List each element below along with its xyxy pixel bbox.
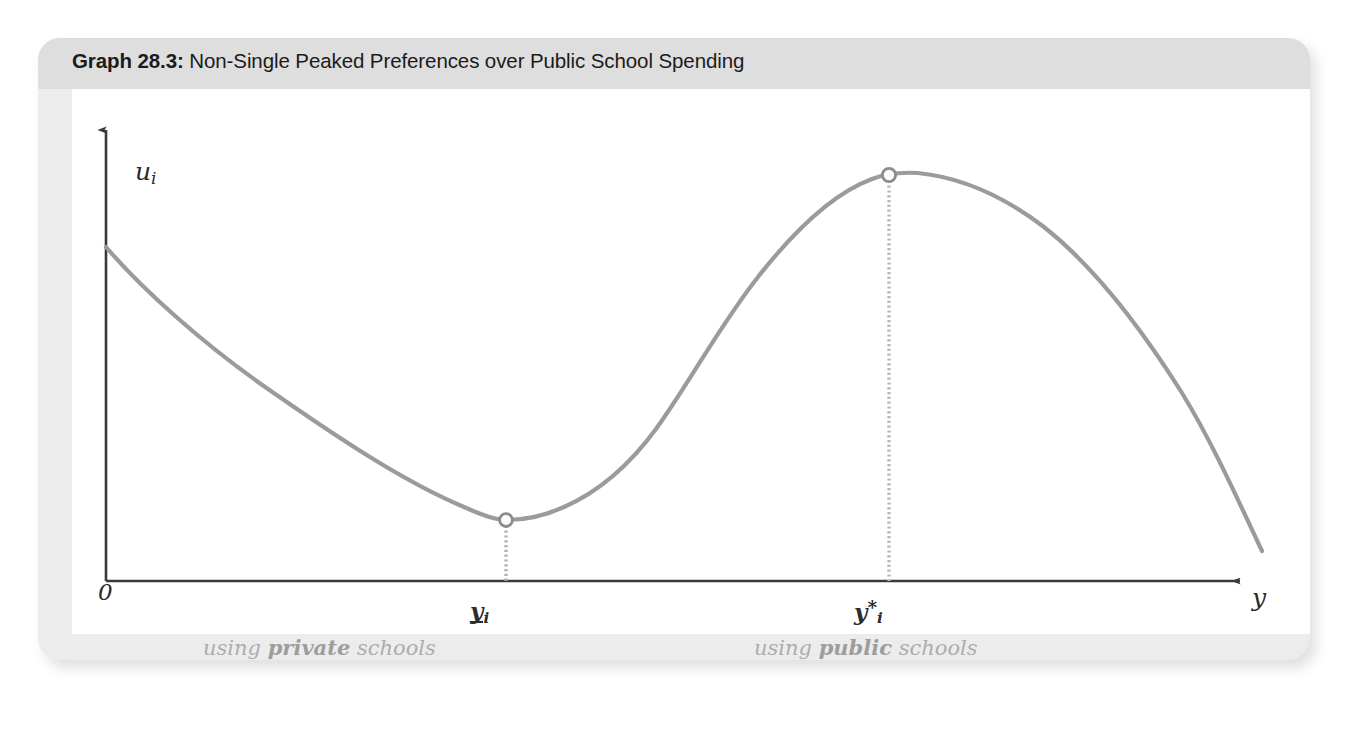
utility-curve bbox=[106, 173, 1262, 551]
figure-title-bar: Graph 28.3: Non-Single Peaked Preference… bbox=[38, 38, 1310, 89]
figure-label: Graph 28.3: bbox=[72, 49, 184, 72]
tick-label-y-optimum: y*i bbox=[854, 597, 883, 627]
y-axis-label: ui bbox=[135, 157, 157, 188]
x-axis-label: y bbox=[1252, 583, 1266, 612]
figure-title-text: Non-Single Peaked Preferences over Publi… bbox=[189, 49, 744, 72]
marker-local-minimum bbox=[500, 514, 513, 527]
figure-title: Graph 28.3: Non-Single Peaked Preference… bbox=[72, 49, 744, 73]
caption-private-schools: using private schools bbox=[203, 635, 436, 660]
origin-label: 0 bbox=[98, 579, 113, 605]
tick-label-y-lower-bound: yi bbox=[470, 597, 489, 627]
utility-chart bbox=[72, 89, 1310, 634]
figure-card: Graph 28.3: Non-Single Peaked Preference… bbox=[38, 38, 1310, 660]
marker-global-maximum bbox=[882, 168, 895, 181]
figure-root: Graph 28.3: Non-Single Peaked Preference… bbox=[0, 0, 1365, 730]
plot-panel: ui y 0 yi y*i using private schools usin… bbox=[72, 89, 1310, 634]
caption-public-schools: using public schools bbox=[754, 635, 978, 660]
